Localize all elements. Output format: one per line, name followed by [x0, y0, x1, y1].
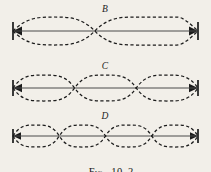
mode-label-c: C — [102, 61, 109, 71]
figure-caption-number: 10–2 — [111, 166, 133, 172]
figure-canvas: B C — [0, 0, 211, 172]
mode-label-b: B — [102, 4, 108, 14]
standing-wave-figure: B C — [0, 0, 211, 172]
wave-mode-c: C — [13, 61, 198, 101]
envelope-upper-c — [13, 75, 198, 88]
wave-mode-b: B — [13, 4, 198, 45]
figure-caption: Fig. 10–2 — [0, 155, 211, 172]
figure-caption-prefix: Fig. — [89, 166, 106, 172]
envelope-upper-b — [13, 17, 198, 31]
envelope-lower-b — [13, 31, 198, 45]
envelope-lower-c — [13, 88, 198, 101]
envelope-lower-d — [13, 136, 198, 147]
wave-mode-d: D — [13, 111, 198, 147]
mode-label-d: D — [101, 111, 109, 121]
envelope-upper-d — [13, 125, 198, 136]
